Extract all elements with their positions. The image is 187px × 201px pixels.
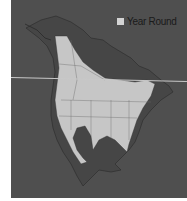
legend-label: Year Round <box>127 16 176 27</box>
range-map: Year Round <box>11 0 187 198</box>
legend-swatch <box>117 18 124 25</box>
legend: Year Round <box>117 16 176 27</box>
north-america-map <box>11 0 187 198</box>
